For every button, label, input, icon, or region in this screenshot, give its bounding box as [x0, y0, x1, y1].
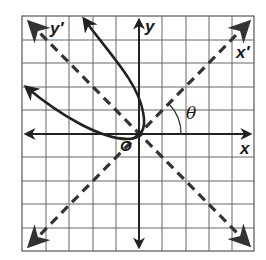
x-prime-label: x′ [236, 44, 250, 61]
y-prime-label: y′ [50, 20, 64, 37]
y-axis-label: y [145, 18, 154, 35]
coordinate-diagram [0, 0, 266, 260]
theta-arc [169, 104, 181, 134]
origin-label: O [120, 138, 132, 153]
theta-label: θ [186, 105, 196, 122]
x-axis-label: x [240, 140, 249, 157]
